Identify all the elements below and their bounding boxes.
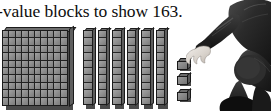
ten-rod-segment <box>142 90 150 97</box>
ten-rod-segment <box>99 46 107 53</box>
ten-rod-segment <box>142 75 150 82</box>
ten-rod-segment <box>113 90 121 97</box>
hundreds-flat-cell <box>61 61 67 68</box>
ten-rod-segment <box>157 38 165 45</box>
ten-rod-segment <box>142 98 150 104</box>
unit-cube-icon <box>177 59 191 71</box>
ten-rod-segment <box>113 53 121 60</box>
unit-cube-side-bevel <box>187 57 191 70</box>
ten-rod-segment <box>128 53 136 60</box>
ten-rod-segment <box>157 75 165 82</box>
ten-rod-segment <box>84 90 92 97</box>
ten-rod-segment <box>99 31 107 38</box>
hundreds-flat-grid <box>2 30 68 106</box>
ten-rod-face <box>112 30 122 105</box>
ten-rod-face <box>156 30 166 105</box>
unit-cube-side-bevel <box>187 88 191 101</box>
hundreds-flat-icon <box>2 28 73 110</box>
ten-rod-segment <box>113 38 121 45</box>
ten-rod-segment <box>113 98 121 104</box>
ten-rod-segment <box>99 75 107 82</box>
ten-rod-icon <box>141 29 152 109</box>
unit-cube-side-bevel <box>187 72 191 85</box>
ten-rod-segment <box>113 46 121 53</box>
ten-rod-face <box>98 30 108 105</box>
hundreds-flat-cell <box>61 46 67 53</box>
ten-rod-segment <box>113 75 121 82</box>
ten-rod-segment <box>142 68 150 75</box>
unit-cube-face <box>177 76 188 85</box>
hundreds-flat-cell <box>61 90 67 97</box>
ten-rod-face <box>127 30 137 105</box>
hundreds-flat-cell <box>61 68 67 75</box>
ten-rod-segment <box>142 53 150 60</box>
unit-cube-group <box>177 59 199 107</box>
hundreds-flat-cell <box>61 31 67 38</box>
hundreds-flat-cell <box>61 75 67 82</box>
ten-rod-segment <box>84 61 92 68</box>
ten-rod-face <box>83 30 93 105</box>
ten-rod-segment <box>128 61 136 68</box>
ten-rod-segment <box>128 46 136 53</box>
ten-rod-segment <box>113 68 121 75</box>
ten-rod-segment <box>84 31 92 38</box>
ten-rod-segment <box>99 83 107 90</box>
ten-rod-segment <box>128 90 136 97</box>
page-title: -value blocks to show 163. <box>0 0 207 24</box>
ten-rod-segment <box>128 68 136 75</box>
ten-rod-segment <box>99 61 107 68</box>
ten-rod-segment <box>128 98 136 104</box>
ten-rod-segment <box>99 53 107 60</box>
ten-rod-segment <box>157 61 165 68</box>
hundreds-flat-cell <box>61 53 67 60</box>
ten-rod-segment <box>157 68 165 75</box>
ten-rod-segment <box>99 98 107 104</box>
ten-rod-segment <box>157 90 165 97</box>
ten-rod-icon <box>83 29 94 109</box>
ten-rod-segment <box>128 38 136 45</box>
ten-rod-segment <box>157 53 165 60</box>
ten-rod-segment <box>128 75 136 82</box>
ten-rod-segment <box>157 98 165 104</box>
ten-rod-segment <box>113 31 121 38</box>
ten-rod-segment <box>142 46 150 53</box>
ten-rod-segment <box>142 38 150 45</box>
ten-rod-segment <box>142 61 150 68</box>
unit-cube-face <box>177 61 188 70</box>
ten-rod-segment <box>84 75 92 82</box>
hundreds-flat-side-bevel <box>69 26 74 107</box>
ten-rod-face <box>141 30 151 105</box>
ten-rod-icon <box>98 29 109 109</box>
worksheet-figure: -value blocks to show 163. <box>0 0 271 111</box>
ten-rod-segment <box>128 83 136 90</box>
ten-rod-segment <box>113 61 121 68</box>
ten-rod-segment <box>157 46 165 53</box>
ten-rod-icon <box>112 29 123 109</box>
ten-rod-segment <box>99 90 107 97</box>
hundreds-flat-cell <box>61 38 67 45</box>
unit-cube-face <box>177 92 188 101</box>
ten-rod-segment <box>84 83 92 90</box>
tens-rod-group <box>83 29 173 111</box>
hundreds-flat-cell <box>61 98 67 105</box>
ten-rod-segment <box>99 68 107 75</box>
ten-rod-segment <box>84 38 92 45</box>
unit-cube-icon <box>177 74 191 86</box>
ten-rod-segment <box>84 98 92 104</box>
hundreds-flat-cell <box>61 83 67 90</box>
ten-rod-segment <box>84 68 92 75</box>
ten-rod-icon <box>127 29 138 109</box>
ten-rod-segment <box>157 31 165 38</box>
ten-rod-segment <box>84 53 92 60</box>
ten-rod-segment <box>157 83 165 90</box>
ten-rod-segment <box>142 83 150 90</box>
ten-rod-segment <box>142 31 150 38</box>
ten-rod-segment <box>99 38 107 45</box>
ten-rod-segment <box>84 46 92 53</box>
unit-cube-icon <box>177 90 191 102</box>
ten-rod-icon <box>156 29 167 109</box>
ten-rod-segment <box>113 83 121 90</box>
ten-rod-segment <box>128 31 136 38</box>
